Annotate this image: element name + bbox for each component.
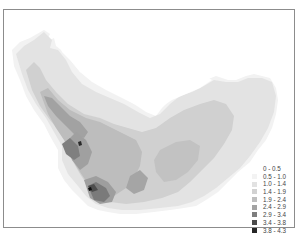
legend-item: 0.5 - 1.0 <box>252 173 297 181</box>
legend-label: 1.0 - 1.4 <box>263 180 286 188</box>
legend-item: 0 - 0.5 <box>252 165 297 173</box>
legend-swatch <box>252 197 257 202</box>
legend-swatch <box>252 182 257 187</box>
legend-label: 1.9 - 2.4 <box>263 196 286 204</box>
legend-swatch <box>252 205 257 210</box>
legend-label: 1.4 - 1.9 <box>263 188 286 196</box>
legend-swatch <box>252 174 257 179</box>
legend-label: 0.5 - 1.0 <box>263 173 286 181</box>
map-legend: 0 - 0.5 0.5 - 1.0 1.0 - 1.4 1.4 - 1.9 1.… <box>252 165 297 233</box>
legend-item: 3.8 - 4.3 <box>252 227 297 234</box>
legend-swatch <box>252 166 257 171</box>
legend-item: 1.9 - 2.4 <box>252 196 297 204</box>
legend-swatch <box>252 189 257 194</box>
legend-swatch <box>252 220 257 225</box>
legend-label: 2.9 - 3.4 <box>263 211 286 219</box>
legend-swatch <box>252 212 257 217</box>
legend-swatch <box>252 228 257 233</box>
legend-item: 2.4 - 2.9 <box>252 203 297 211</box>
legend-label: 0 - 0.5 <box>263 165 281 173</box>
legend-item: 1.0 - 1.4 <box>252 180 297 188</box>
legend-item: 3.4 - 3.8 <box>252 219 297 227</box>
legend-item: 1.4 - 1.9 <box>252 188 297 196</box>
legend-item: 2.9 - 3.4 <box>252 211 297 219</box>
legend-label: 3.4 - 3.8 <box>263 219 286 227</box>
legend-label: 3.8 - 4.3 <box>263 227 286 234</box>
legend-label: 2.4 - 2.9 <box>263 203 286 211</box>
